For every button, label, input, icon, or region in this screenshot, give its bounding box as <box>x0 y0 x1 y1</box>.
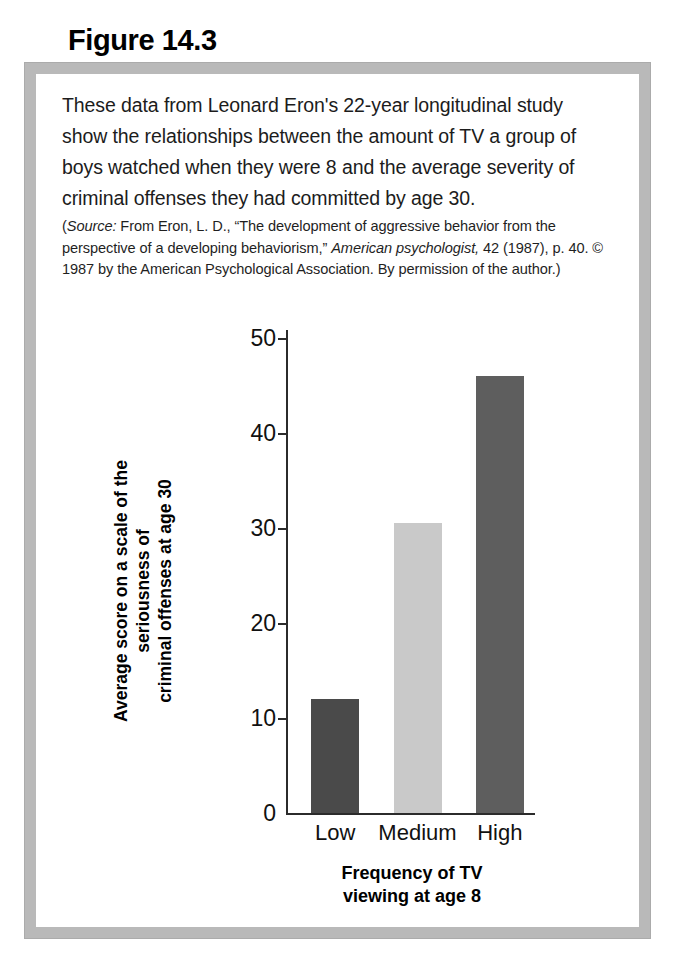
plot-area: 01020304050 <box>286 330 536 815</box>
figure-frame-inner: These data from Leonard Eron's 22-year l… <box>36 74 639 927</box>
y-axis-tick <box>278 433 287 435</box>
x-axis-line <box>286 813 535 815</box>
y-axis-tick <box>278 718 287 720</box>
y-axis-tick-label: 20 <box>216 610 276 637</box>
x-axis-tick-label-high: High <box>459 820 541 846</box>
x-axis-title-line-1: Frequency of TV <box>286 862 538 885</box>
source-label: Source: <box>67 218 117 234</box>
figure-source-note: (Source: From Eron, L. D., “The developm… <box>62 216 614 281</box>
y-axis-tick-label: 0 <box>216 800 276 827</box>
y-axis-tick-label: 40 <box>216 420 276 447</box>
bar-high <box>476 376 524 813</box>
y-axis-tick-label: 10 <box>216 705 276 732</box>
x-axis-title: Frequency of TV viewing at age 8 <box>286 862 538 908</box>
bar-chart: Average score on a scale of the seriousn… <box>36 310 641 930</box>
x-axis-title-line-2: viewing at age 8 <box>286 885 538 908</box>
x-axis-tick-label-medium: Medium <box>376 820 458 846</box>
figure-number-title: Figure 14.3 <box>68 26 217 55</box>
bar-series <box>288 330 535 813</box>
x-axis-tick-label-low: Low <box>294 820 376 846</box>
y-axis-tick <box>278 623 287 625</box>
source-journal-name: American psychologist, <box>331 240 479 256</box>
x-axis-tick-labels: LowMediumHigh <box>288 820 535 850</box>
figure-caption: These data from Leonard Eron's 22-year l… <box>62 90 607 214</box>
y-axis-title: Average score on a scale of the seriousn… <box>110 426 176 756</box>
y-axis-title-line-2: criminal offenses at age 30 <box>154 426 176 756</box>
y-axis-tick <box>278 528 287 530</box>
y-axis-tick-label: 30 <box>216 515 276 542</box>
figure-frame: These data from Leonard Eron's 22-year l… <box>24 62 651 939</box>
y-axis-title-line-1: Average score on a scale of the seriousn… <box>110 426 154 756</box>
y-axis-tick-label: 50 <box>216 325 276 352</box>
y-axis-tick <box>278 338 287 340</box>
bar-medium <box>394 523 442 813</box>
bar-low <box>311 699 359 813</box>
